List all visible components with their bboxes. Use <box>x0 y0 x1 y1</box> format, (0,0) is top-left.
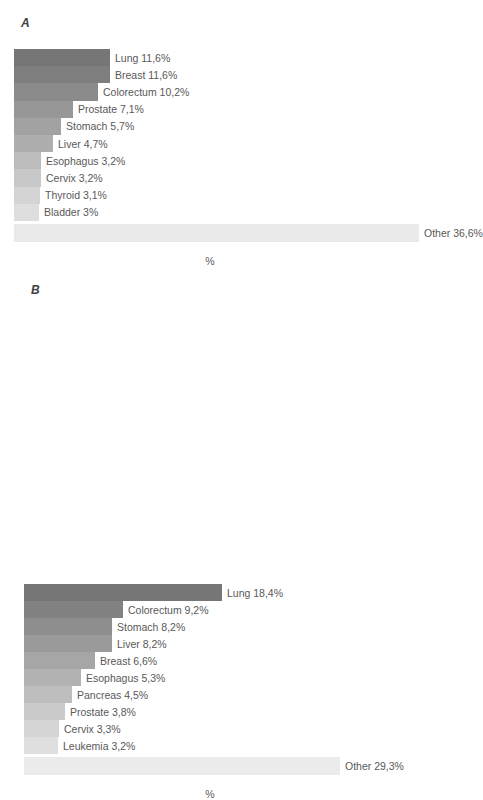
bar-label: Breast 6,6% <box>100 655 157 666</box>
bar-row: Stomach 8,2% <box>24 618 419 635</box>
bar-segment <box>14 101 73 118</box>
panel-b: B Lung 18,4%Colorectum 9,2%Stomach 8,2%L… <box>0 272 433 545</box>
bar-segment <box>14 66 110 83</box>
bar-label: Stomach 5,7% <box>66 121 134 132</box>
bar-segment <box>24 652 95 669</box>
bar-segment <box>24 601 123 618</box>
chart-b-plot-area: Lung 18,4%Colorectum 9,2%Stomach 8,2%Liv… <box>24 584 419 777</box>
bar-row: Lung 11,6% <box>14 49 419 66</box>
bar-row: Pancreas 4,5% <box>24 686 419 703</box>
bar-row: Esophagus 3,2% <box>14 152 419 169</box>
bar-segment <box>24 720 59 737</box>
chart-a-plot-area: Lung 11,6%Breast 11,6%Colorectum 10,2%Pr… <box>14 49 419 244</box>
chart-b-axis-label: % <box>0 788 420 800</box>
bar-label: Leukemia 3,2% <box>63 740 135 751</box>
bar-label: Thyroid 3,1% <box>45 190 107 201</box>
bar-label: Liver 8,2% <box>117 638 167 649</box>
bar-row: Liver 8,2% <box>24 635 419 652</box>
bar-label: Esophagus 3,2% <box>46 156 125 167</box>
bar-row: Prostate 7,1% <box>14 101 419 118</box>
bar-segment <box>14 169 41 186</box>
bar-row: Cervix 3,3% <box>24 720 419 737</box>
bar-label: Other 29,3% <box>345 761 404 772</box>
bar-segment <box>14 224 419 242</box>
bar-label: Lung 18,4% <box>227 587 283 598</box>
bar-row: Thyroid 3,1% <box>14 187 419 204</box>
bar-segment <box>24 686 72 703</box>
bar-label: Stomach 8,2% <box>117 621 185 632</box>
bar-label: Liver 4,7% <box>58 138 108 149</box>
bar-segment <box>24 618 112 635</box>
bar-segment <box>24 737 58 754</box>
bar-segment <box>24 757 340 775</box>
bar-row: Liver 4,7% <box>14 135 419 152</box>
bar-label: Bladder 3% <box>44 207 98 218</box>
bar-segment <box>24 635 112 652</box>
bar-label: Colorectum 9,2% <box>128 604 209 615</box>
bar-row: Breast 6,6% <box>24 652 419 669</box>
panel-a-label: A <box>21 16 30 30</box>
bar-row: Stomach 5,7% <box>14 118 419 135</box>
bar-row: Esophagus 5,3% <box>24 669 419 686</box>
bar-label: Cervix 3,3% <box>64 723 121 734</box>
bar-segment <box>24 669 81 686</box>
bar-row: Colorectum 10,2% <box>14 83 419 100</box>
bar-label: Lung 11,6% <box>115 52 170 63</box>
bar-row-other: Other 29,3% <box>24 757 419 775</box>
panel-b-label: B <box>31 283 40 297</box>
bar-segment <box>24 703 65 720</box>
bar-segment <box>14 204 39 221</box>
bar-label: Pancreas 4,5% <box>77 689 148 700</box>
bar-segment <box>14 49 110 66</box>
bar-row: Breast 11,6% <box>14 66 419 83</box>
bar-segment <box>14 152 41 169</box>
bar-segment <box>14 118 61 135</box>
bar-segment <box>14 135 53 152</box>
bar-label: Other 36,6% <box>424 228 483 239</box>
bar-row: Prostate 3,8% <box>24 703 419 720</box>
bar-row: Lung 18,4% <box>24 584 419 601</box>
bar-label: Esophagus 5,3% <box>86 672 165 683</box>
bar-segment <box>14 187 40 204</box>
bar-label: Cervix 3,2% <box>46 173 103 184</box>
panel-a: A Lung 11,6%Breast 11,6%Colorectum 10,2%… <box>0 0 433 272</box>
bar-label: Prostate 3,8% <box>70 706 136 717</box>
bar-label: Colorectum 10,2% <box>103 87 189 98</box>
bar-row: Leukemia 3,2% <box>24 737 419 754</box>
bar-row-other: Other 36,6% <box>14 224 419 242</box>
bar-label: Prostate 7,1% <box>78 104 144 115</box>
bar-segment <box>24 584 222 601</box>
chart-a-axis-label: % <box>0 255 420 267</box>
bar-row: Colorectum 9,2% <box>24 601 419 618</box>
bar-row: Cervix 3,2% <box>14 169 419 186</box>
bar-row: Bladder 3% <box>14 204 419 221</box>
bar-segment <box>14 83 98 100</box>
bar-label: Breast 11,6% <box>115 70 177 81</box>
